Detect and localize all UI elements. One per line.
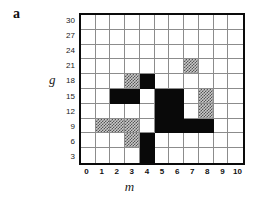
heatmap-cell — [125, 74, 140, 89]
heatmap-cell — [155, 119, 170, 134]
heatmap-cell — [184, 45, 199, 60]
heatmap-cell — [184, 15, 199, 30]
heatmap-cell — [199, 45, 214, 60]
x-tick-label: 9 — [215, 167, 230, 179]
heatmap-cell — [110, 148, 125, 163]
heatmap-cell — [199, 89, 214, 104]
y-tick-label: 18 — [58, 74, 76, 89]
heatmap-cell — [184, 133, 199, 148]
heatmap-cell — [140, 89, 155, 104]
heatmap-cell — [125, 89, 140, 104]
heatmap-cell — [214, 45, 229, 60]
heatmap-cell — [214, 74, 229, 89]
heatmap-cell — [184, 119, 199, 134]
heatmap-cell — [125, 119, 140, 134]
heatmap-cell — [155, 148, 170, 163]
heatmap-cell — [96, 45, 111, 60]
heatmap-cell — [184, 89, 199, 104]
heatmap-cell — [169, 119, 184, 134]
heatmap-cell — [214, 30, 229, 45]
x-tick-label: 1 — [94, 167, 109, 179]
heatmap-cell — [155, 15, 170, 30]
heatmap-cell — [140, 148, 155, 163]
heatmap-cell — [228, 119, 243, 134]
heatmap-cell — [110, 45, 125, 60]
heatmap-cell — [199, 104, 214, 119]
heatmap-cell — [110, 15, 125, 30]
heatmap-cell — [125, 148, 140, 163]
heatmap-cell — [96, 74, 111, 89]
heatmap-cell — [140, 30, 155, 45]
heatmap-cell — [125, 59, 140, 74]
heatmap-cell — [155, 89, 170, 104]
heatmap-cell — [184, 30, 199, 45]
heatmap-cell — [125, 104, 140, 119]
heatmap-cell — [140, 45, 155, 60]
heatmap-cell — [81, 45, 96, 60]
y-tick-label: 24 — [58, 43, 76, 58]
x-tick-label: 5 — [154, 167, 169, 179]
heatmap-cell — [155, 104, 170, 119]
heatmap-cell — [96, 89, 111, 104]
heatmap-cell — [140, 133, 155, 148]
heatmap-cell — [81, 133, 96, 148]
y-tick-label: 9 — [58, 119, 76, 134]
heatmap-cell — [110, 119, 125, 134]
heatmap-cell — [81, 89, 96, 104]
heatmap-cell — [214, 148, 229, 163]
heatmap-cell — [214, 89, 229, 104]
x-axis-title: m — [0, 180, 259, 193]
heatmap-cell — [96, 104, 111, 119]
heatmap-cell — [199, 133, 214, 148]
heatmap-cell — [228, 15, 243, 30]
heatmap-cell — [155, 30, 170, 45]
heatmap-cell — [184, 104, 199, 119]
heatmap-cell — [228, 133, 243, 148]
heatmap-cell — [110, 74, 125, 89]
x-axis-tick-labels: 012345678910 — [79, 167, 245, 179]
y-tick-label: 30 — [58, 13, 76, 28]
heatmap-cell — [125, 45, 140, 60]
heatmap-cell — [110, 89, 125, 104]
x-tick-label: 8 — [200, 167, 215, 179]
heatmap-cell — [110, 104, 125, 119]
heatmap-cell — [96, 59, 111, 74]
heatmap-cell — [125, 133, 140, 148]
heatmap-cell — [96, 133, 111, 148]
heatmap-cell — [81, 104, 96, 119]
heatmap-cell — [228, 59, 243, 74]
heatmap-cell — [81, 119, 96, 134]
heatmap-cell — [169, 148, 184, 163]
heatmap-cell — [81, 59, 96, 74]
heatmap-cell — [110, 30, 125, 45]
heatmap-cell — [155, 133, 170, 148]
heatmap-cell — [199, 59, 214, 74]
heatmap-cell — [81, 30, 96, 45]
heatmap-cell — [140, 74, 155, 89]
heatmap-cell — [169, 89, 184, 104]
x-tick-label: 3 — [124, 167, 139, 179]
heatmap-cell — [214, 59, 229, 74]
heatmap-cell — [169, 45, 184, 60]
heatmap-cell — [199, 148, 214, 163]
y-tick-label: 3 — [58, 150, 76, 165]
panel-label: a — [13, 7, 20, 21]
y-axis-tick-labels: 30272421181512963 — [58, 13, 76, 165]
y-tick-label: 21 — [58, 59, 76, 74]
heatmap-cell — [125, 15, 140, 30]
heatmap-cell — [96, 15, 111, 30]
x-tick-label: 7 — [185, 167, 200, 179]
heatmap-cell — [140, 104, 155, 119]
heatmap-cell — [110, 133, 125, 148]
heatmap-cell — [184, 148, 199, 163]
heatmap-cell — [81, 148, 96, 163]
heatmap-cell — [169, 74, 184, 89]
heatmap-cell — [110, 59, 125, 74]
heatmap-cell — [125, 30, 140, 45]
figure-panel-a: a g m 30272421181512963 012345678910 — [0, 0, 259, 197]
y-tick-label: 12 — [58, 104, 76, 119]
heatmap-cell — [228, 74, 243, 89]
heatmap-grid — [79, 13, 245, 165]
y-tick-label: 15 — [58, 89, 76, 104]
heatmap-cell — [96, 30, 111, 45]
